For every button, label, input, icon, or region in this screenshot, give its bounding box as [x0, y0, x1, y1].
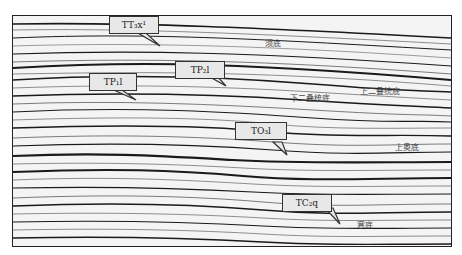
callout-TO3l: TO₃l: [235, 122, 287, 140]
horizon-label-xu-base: 须底: [265, 37, 281, 48]
seismic-reflectors: [13, 16, 451, 246]
horizon-label-lower-permian-base: 下二叠统底: [290, 92, 330, 103]
horizon-label-upper-permian-base: 上二叠统底: [360, 85, 400, 96]
callout-TC2q: TC₂q: [282, 194, 332, 212]
horizon-label-upper-ordovician-base: 上奥底: [395, 141, 419, 152]
callout-TP1l: TP₁l: [89, 73, 137, 91]
callout-TP2l: TP₂l: [175, 61, 225, 79]
callout-TT3x1: TT₃x¹: [109, 16, 159, 34]
horizon-label-cambrian-base: 寒底: [357, 219, 373, 230]
seismic-section-frame: [12, 15, 452, 247]
